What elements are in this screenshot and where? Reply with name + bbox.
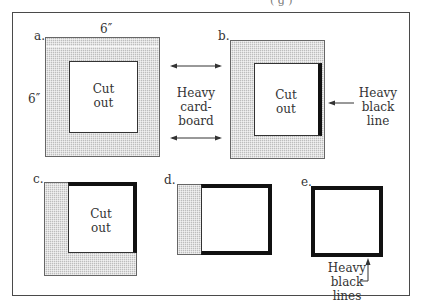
elbow-arrow-up-icon bbox=[0, 0, 421, 308]
